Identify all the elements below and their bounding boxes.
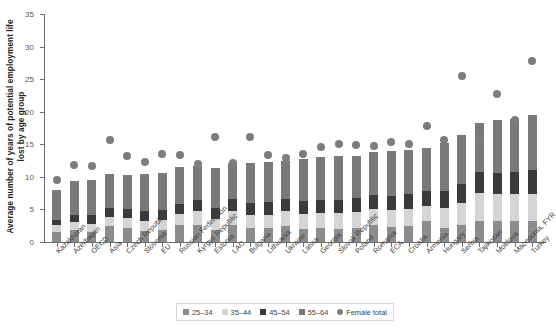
bar-segment	[440, 191, 449, 208]
bar-stack[interactable]	[228, 163, 237, 242]
legend-item[interactable]: 25–34	[183, 308, 213, 317]
bar-segment	[422, 148, 431, 191]
bar-stack[interactable]	[510, 119, 519, 242]
bar-segment	[246, 215, 255, 228]
bar-segment	[193, 211, 202, 225]
female-total-dot[interactable]	[299, 150, 307, 158]
legend-label: Female total	[346, 308, 387, 317]
female-total-dot[interactable]	[511, 116, 519, 124]
bar-segment	[105, 174, 114, 209]
bar-stack[interactable]	[457, 135, 466, 242]
bar-segment	[123, 175, 132, 209]
female-total-dot[interactable]	[141, 158, 149, 166]
female-total-dot[interactable]	[370, 142, 378, 150]
bar-stack[interactable]	[334, 156, 343, 242]
bar-stack[interactable]	[246, 163, 255, 242]
legend-label: 55–64	[308, 308, 329, 317]
female-total-dot[interactable]	[246, 133, 254, 141]
bar-stack[interactable]	[404, 150, 413, 242]
bar-segment	[193, 166, 202, 200]
bar-segment	[528, 115, 537, 170]
bar-segment	[440, 208, 449, 228]
female-total-dot[interactable]	[335, 140, 343, 148]
bar-segment	[334, 213, 343, 229]
female-total-dot[interactable]	[88, 162, 96, 170]
bar-segment	[352, 198, 361, 212]
bar-stack[interactable]	[316, 157, 325, 242]
female-total-dot[interactable]	[475, 138, 483, 146]
bar-segment	[404, 209, 413, 226]
female-total-dot[interactable]	[493, 90, 501, 98]
bar-stack[interactable]	[52, 190, 61, 242]
female-total-dot[interactable]	[317, 143, 325, 151]
bar-segment	[404, 194, 413, 209]
bar-segment	[510, 172, 519, 194]
bar-segment	[369, 152, 378, 195]
bar-stack[interactable]	[299, 159, 308, 242]
female-total-dot[interactable]	[106, 136, 114, 144]
legend-swatch-icon	[183, 309, 189, 315]
bar-stack[interactable]	[493, 120, 502, 242]
bar-segment	[264, 202, 273, 214]
legend-label: 45–54	[269, 308, 290, 317]
bar-segment	[140, 211, 149, 221]
legend-item[interactable]: 55–64	[299, 308, 329, 317]
bar-segment	[264, 162, 273, 202]
y-axis-tick-label: 35	[0, 10, 34, 19]
bar-segment	[211, 168, 220, 207]
bar-segment	[281, 199, 290, 211]
bar-segment	[475, 123, 484, 171]
bar-segment	[334, 200, 343, 213]
bar-stack[interactable]	[105, 174, 114, 242]
female-total-dot[interactable]	[158, 150, 166, 158]
bar-segment	[352, 156, 361, 198]
bar-segment	[387, 196, 396, 210]
bar-segment	[475, 193, 484, 221]
female-total-dot[interactable]	[440, 136, 448, 144]
female-total-dot[interactable]	[282, 154, 290, 162]
bar-segment	[404, 226, 413, 242]
female-total-dot[interactable]	[423, 122, 431, 130]
female-total-dot[interactable]	[405, 140, 413, 148]
bar-stack[interactable]	[440, 143, 449, 242]
bar-segment	[175, 225, 184, 242]
y-axis-tick-label: 0	[0, 238, 34, 247]
bar-stack[interactable]	[369, 152, 378, 242]
female-total-dot[interactable]	[194, 160, 202, 168]
bar-segment	[316, 213, 325, 229]
bar-segment	[404, 150, 413, 195]
bar-segment	[387, 151, 396, 195]
bar-segment	[52, 190, 61, 220]
bar-segment	[70, 181, 79, 214]
bar-segment	[299, 159, 308, 201]
bar-stack[interactable]	[123, 175, 132, 242]
bar-segment	[369, 195, 378, 209]
female-total-dot[interactable]	[176, 151, 184, 159]
female-total-dot[interactable]	[229, 159, 237, 167]
female-total-dot[interactable]	[264, 151, 272, 159]
female-total-dot[interactable]	[70, 161, 78, 169]
bar-stack[interactable]	[528, 115, 537, 242]
legend-item[interactable]: 35–44	[222, 308, 252, 317]
female-total-dot[interactable]	[528, 57, 536, 65]
bar-segment	[105, 208, 114, 217]
female-total-dot[interactable]	[352, 141, 360, 149]
female-total-dot[interactable]	[458, 72, 466, 80]
plot-area	[44, 14, 546, 242]
legend-item[interactable]: Female total	[337, 308, 387, 317]
female-total-dot[interactable]	[211, 133, 219, 141]
bar-stack[interactable]	[175, 167, 184, 242]
female-total-dot[interactable]	[123, 152, 131, 160]
legend-item[interactable]: 45–54	[260, 308, 290, 317]
y-axis-tick-label: 5	[0, 205, 34, 214]
y-axis-tick-label: 30	[0, 42, 34, 51]
bar-stack[interactable]	[422, 148, 431, 242]
legend-swatch-icon	[260, 309, 266, 315]
y-axis-tick-label: 10	[0, 172, 34, 181]
female-total-dot[interactable]	[387, 138, 395, 146]
bar-segment	[123, 228, 132, 242]
chart-legend: 25–3435–4445–5455–64Female total	[176, 303, 394, 321]
female-total-dot[interactable]	[53, 176, 61, 184]
bar-segment	[87, 180, 96, 215]
bar-segment	[528, 170, 537, 193]
